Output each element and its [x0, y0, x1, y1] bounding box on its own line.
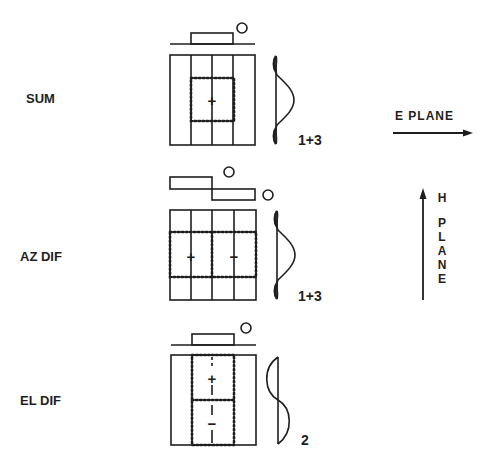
az-dif-feed-probe-icon-2: [263, 190, 273, 200]
az-dif-aperture: [170, 210, 256, 300]
e-plane-label: E PLANE: [395, 109, 454, 123]
e-plane-indicator: E PLANE: [393, 109, 473, 137]
el-dif-feed-probe-icon: [241, 323, 251, 333]
antenna-mode-diagram: SUM + 1+3 AZ DIF: [0, 0, 490, 462]
h-plane-letter: P: [438, 216, 446, 230]
sum-center-sign: +: [208, 92, 217, 109]
sum-label: SUM: [26, 91, 55, 106]
el-dif-pattern-label: 2: [301, 432, 309, 448]
sum-feed-probe-icon: [237, 23, 247, 33]
el-dif-feed: [171, 323, 256, 345]
az-dif-left-sign: +: [187, 248, 196, 265]
el-dif-bottom-sign: −: [208, 415, 217, 432]
az-dif-right-sign: −: [230, 248, 239, 265]
h-plane-letter: L: [438, 230, 445, 244]
el-dif-top-sign: +: [208, 370, 217, 387]
az-dif-label: AZ DIF: [20, 249, 62, 264]
el-dif-label: EL DIF: [20, 393, 61, 408]
sum-feed: [170, 23, 255, 44]
h-plane-letter: E: [438, 272, 446, 286]
h-plane-letter: A: [438, 244, 447, 258]
h-plane-indicator: H P L A N E: [420, 188, 447, 300]
az-dif-dotted-region: [170, 232, 256, 277]
az-dif-feed: [170, 167, 273, 200]
h-plane-letter: H: [438, 191, 447, 205]
az-dif-row: AZ DIF + − 1+3: [20, 167, 322, 304]
sum-pattern-label: 1+3: [298, 132, 322, 148]
sum-row: SUM + 1+3: [26, 23, 322, 148]
el-dif-row: EL DIF + − 2: [20, 323, 309, 448]
el-dif-pattern-curve: [267, 357, 290, 444]
az-dif-pattern-label: 1+3: [298, 288, 322, 304]
h-plane-letter: N: [438, 258, 447, 272]
az-dif-feed-probe-icon: [224, 167, 234, 177]
az-dif-pattern-curve: [275, 211, 295, 299]
sum-pattern-curve: [274, 56, 294, 144]
